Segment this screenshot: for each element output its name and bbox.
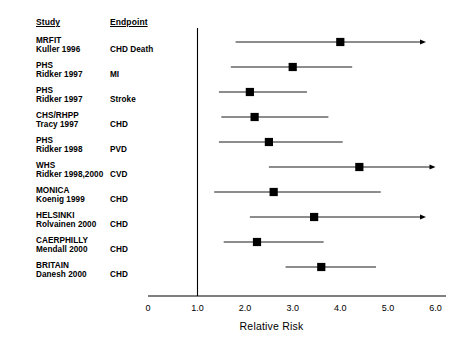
table-row: PHSRidker 1998PVD <box>0 136 200 158</box>
forest-row-6 <box>214 188 381 196</box>
study-author-year: Ridker 1998,2000 <box>36 170 103 179</box>
forest-plot-figure: Study Endpoint MRFITKuller 1996CHD Death… <box>0 0 453 350</box>
study-author-year: Ridker 1998 <box>36 145 83 154</box>
point-estimate-marker <box>265 138 273 146</box>
forest-row-7 <box>250 213 426 221</box>
point-estimate-marker <box>336 38 344 46</box>
study-name: PHS <box>36 136 53 145</box>
study-name: MONICA <box>36 186 70 195</box>
forest-row-5 <box>269 163 436 171</box>
column-header-study: Study <box>36 17 60 27</box>
study-endpoint: CHD <box>110 120 128 129</box>
x-axis-title: Relative Risk <box>0 320 453 332</box>
table-row: MONICAKoenig 1999CHD <box>0 186 200 208</box>
point-estimate-marker <box>317 263 325 271</box>
table-row: BRITAINDanesh 2000CHD <box>0 261 200 283</box>
study-author-year: Danesh 2000 <box>36 270 87 279</box>
forest-row-8 <box>224 238 324 246</box>
study-endpoint: PVD <box>110 145 127 154</box>
study-endpoint: MI <box>110 70 119 79</box>
arrow-right-icon <box>420 39 426 44</box>
point-estimate-marker <box>310 213 318 221</box>
study-name: CHS/RHPP <box>36 111 79 120</box>
study-endpoint: CHD <box>110 245 128 254</box>
x-tick-label: 1.0 <box>178 303 218 313</box>
study-endpoint: CHD <box>110 270 128 279</box>
study-author-year: Ridker 1997 <box>36 95 83 104</box>
study-endpoint: CVD <box>110 170 127 179</box>
column-header-endpoint: Endpoint <box>110 17 148 27</box>
forest-row-3 <box>221 113 328 121</box>
table-row: CAERPHILLYMendall 2000CHD <box>0 236 200 258</box>
forest-row-2 <box>219 88 307 96</box>
point-estimate-marker <box>251 113 259 121</box>
forest-row-1 <box>231 63 352 71</box>
study-endpoint: CHD <box>110 220 128 229</box>
table-row: HELSINKIRolvainen 2000CHD <box>0 211 200 233</box>
x-tick-label: 3.0 <box>273 303 313 313</box>
study-name: WHS <box>36 161 55 170</box>
study-endpoint: CHD Death <box>110 45 153 54</box>
x-axis-title-text: Relative Risk <box>240 320 304 332</box>
study-author-year: Mendall 2000 <box>36 245 88 254</box>
study-name: MRFIT <box>36 36 61 45</box>
study-author-year: Tracy 1997 <box>36 120 78 129</box>
x-tick-label: 2.0 <box>225 303 265 313</box>
table-row: WHSRidker 1998,2000CVD <box>0 161 200 183</box>
table-row: PHSRidker 1997MI <box>0 61 200 83</box>
study-author-year: Ridker 1997 <box>36 70 83 79</box>
study-name: PHS <box>36 61 53 70</box>
study-endpoint: Stroke <box>110 95 136 104</box>
study-name: BRITAIN <box>36 261 69 270</box>
study-author-year: Kuller 1996 <box>36 45 80 54</box>
point-estimate-marker <box>355 163 363 171</box>
x-tick-label: 0 <box>128 303 168 313</box>
point-estimate-marker <box>246 88 254 96</box>
study-author-year: Rolvainen 2000 <box>36 220 96 229</box>
x-tick-label: 6.0 <box>416 303 453 313</box>
arrow-right-icon <box>430 164 436 169</box>
study-name: CAERPHILLY <box>36 236 88 245</box>
point-estimate-marker <box>270 188 278 196</box>
study-endpoint: CHD <box>110 195 128 204</box>
forest-row-9 <box>286 263 376 271</box>
table-row: MRFITKuller 1996CHD Death <box>0 36 200 58</box>
table-row: PHSRidker 1997Stroke <box>0 86 200 108</box>
forest-row-4 <box>219 138 343 146</box>
forest-row-0 <box>236 38 426 46</box>
study-author-year: Koenig 1999 <box>36 195 85 204</box>
table-row: CHS/RHPPTracy 1997CHD <box>0 111 200 133</box>
study-name: PHS <box>36 86 53 95</box>
arrow-right-icon <box>420 214 426 219</box>
x-tick-label: 5.0 <box>368 303 408 313</box>
point-estimate-marker <box>289 63 297 71</box>
confidence-interval-group <box>214 38 435 271</box>
point-estimate-marker <box>253 238 261 246</box>
x-tick-label: 4.0 <box>320 303 360 313</box>
study-name: HELSINKI <box>36 211 75 220</box>
